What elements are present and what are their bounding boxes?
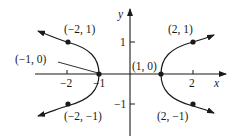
label-2-1: (2, 1)	[168, 23, 193, 36]
point-neg2-1	[65, 39, 70, 44]
x-tick-label-neg1: −1	[93, 77, 105, 89]
point-neg2-neg1	[65, 101, 70, 106]
right-branch-curve-lower	[161, 74, 214, 113]
label-1-0: (1, 0)	[132, 60, 157, 73]
x-tick-label-2: 2	[189, 77, 195, 89]
label-2-neg1: (2, −1)	[157, 110, 189, 123]
label-neg1-0: (−1, 0)	[15, 53, 47, 66]
point-2-1	[190, 39, 195, 44]
x-tick-label-neg2: −2	[60, 77, 72, 89]
y-tick-label-1: 1	[120, 36, 126, 48]
label-neg2-1: (−2, 1)	[64, 23, 96, 36]
label-neg2-neg1: (−2, −1)	[64, 110, 102, 123]
leader-line-neg1-0	[58, 62, 98, 73]
y-tick-label-neg1: −1	[114, 98, 126, 110]
left-branch-curve	[38, 31, 99, 74]
y-axis-label: y	[117, 8, 124, 21]
point-neg1-0	[96, 71, 101, 76]
x-axis-label: x	[213, 77, 220, 89]
point-1-0	[158, 71, 163, 76]
right-branch-curve	[161, 35, 214, 74]
point-2-neg1	[190, 101, 195, 106]
parabola-plot: x y −2 −1 2 1 −1 (−2, 1) (2, 1) (−1, 0) …	[0, 0, 237, 138]
